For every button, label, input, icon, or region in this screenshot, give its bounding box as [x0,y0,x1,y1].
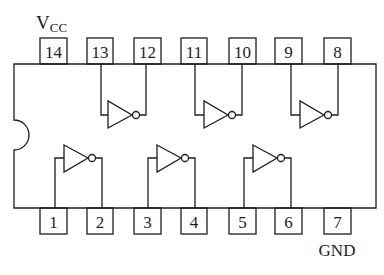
pin-6-label: 6 [284,213,293,232]
pin-3-label: 3 [143,213,152,232]
pin-7-label: 7 [333,213,342,232]
inverter-gate-9-8 [291,64,338,128]
pin-2-label: 2 [96,213,105,232]
pin-8-label: 8 [333,43,342,62]
inversion-bubble-icon [229,112,236,119]
pin-9-label: 9 [284,43,293,62]
vcc-main: V [36,12,50,33]
vcc-label: VCC [36,12,67,35]
vcc-subscript: CC [50,20,67,35]
pin-14-label: 14 [45,43,63,62]
inverter-triangle-icon [108,101,132,128]
ic-pinout-diagram: 14 13 12 11 10 9 8 1 2 3 4 5 6 7 VCC GND [0,0,384,275]
pin-5-label: 5 [238,213,247,232]
pin-1-label: 1 [49,213,58,232]
inversion-bubble-icon [278,155,285,162]
inversion-bubble-icon [325,112,332,119]
inversion-bubble-icon [182,155,189,162]
inversion-bubble-icon [89,155,96,162]
pin-12-label: 12 [139,43,156,62]
inverter-triangle-icon [300,101,324,128]
inverter-triangle-icon [157,145,181,172]
inversion-bubble-icon [133,112,140,119]
gnd-label: GND [319,241,356,260]
pin-10-label: 10 [234,43,251,62]
pin-4-label: 4 [190,213,199,232]
inverter-gate-1-2 [55,145,102,208]
inverter-gate-5-6 [244,145,291,208]
inverter-triangle-icon [253,145,277,172]
inverter-gate-11-10 [195,64,242,128]
pin-13-label: 13 [92,43,109,62]
inverter-triangle-icon [64,145,88,172]
inverter-triangle-icon [204,101,228,128]
inverter-gate-3-4 [148,145,195,208]
inverter-gate-13-12 [101,64,146,128]
pin-11-label: 11 [186,43,202,62]
